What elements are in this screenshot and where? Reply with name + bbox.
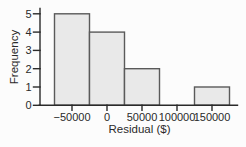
x-tick-label: 150000 <box>194 111 231 123</box>
x-axis-title: Residual ($) <box>109 123 171 135</box>
histogram-svg: −50000050000100000150000012345 Frequency… <box>0 0 246 147</box>
x-tick-label: 0 <box>104 111 110 123</box>
y-axis-title: Frequency <box>8 30 20 85</box>
bars-group <box>55 14 230 106</box>
histogram-bar <box>125 69 160 106</box>
x-tick-label: 100000 <box>159 111 196 123</box>
histogram-bar <box>195 87 230 105</box>
histogram-bar <box>55 14 90 106</box>
y-tick-label: 5 <box>25 8 31 20</box>
x-tick-label: 50000 <box>127 111 158 123</box>
y-tick-label: 0 <box>25 99 31 111</box>
x-tick-label: −50000 <box>53 111 90 123</box>
histogram-figure: −50000050000100000150000012345 Frequency… <box>0 0 246 147</box>
histogram-bar <box>90 32 125 105</box>
y-tick-label: 4 <box>25 26 31 38</box>
y-tick-label: 1 <box>25 81 31 93</box>
y-tick-label: 3 <box>25 44 31 56</box>
y-tick-label: 2 <box>25 63 31 75</box>
